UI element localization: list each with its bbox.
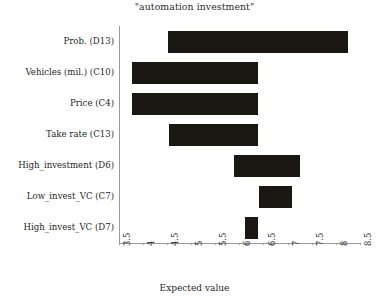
x-tick-mark [288, 243, 289, 245]
x-tick-mark [191, 243, 192, 245]
bar [168, 31, 348, 53]
y-axis-label: Vehicles (mil.) (C10) [0, 67, 114, 77]
y-axis-label: High_invest_VC (D7) [0, 222, 114, 232]
x-axis-title: Expected value [0, 283, 389, 293]
x-tick-mark [239, 243, 240, 245]
bar [132, 62, 259, 84]
x-tick-mark [167, 243, 168, 245]
bar [169, 124, 258, 146]
y-axis-label: Take rate (C13) [0, 129, 114, 139]
bar [245, 217, 258, 239]
x-tick-mark [263, 243, 264, 245]
x-tick-mark [336, 243, 337, 245]
bar [234, 155, 300, 177]
y-axis-label: Low_invest_VC (C7) [0, 191, 114, 201]
tornado-chart: "automation investment" Prob. (D13)Vehic… [0, 0, 389, 302]
chart-title: "automation investment" [0, 1, 389, 12]
y-axis-line [119, 26, 120, 243]
y-axis-label: Price (C4) [0, 98, 114, 108]
bar [259, 186, 292, 208]
x-tick-mark [360, 243, 361, 245]
x-tick-mark [215, 243, 216, 245]
x-tick-mark [119, 243, 120, 245]
x-tick-mark [143, 243, 144, 245]
x-tick-mark [312, 243, 313, 245]
bar [132, 93, 259, 115]
y-axis-label: Prob. (D13) [0, 36, 114, 46]
y-axis-label: High_investment (D6) [0, 160, 114, 170]
